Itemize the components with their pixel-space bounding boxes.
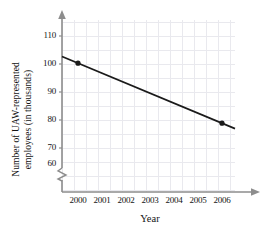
y-tick-label-60: 60 (30, 158, 56, 168)
chart-figure: 110 100 90 80 70 60 2000 2001 2002 2003 … (0, 0, 273, 239)
y-tick-label-100: 100 (30, 58, 56, 68)
y-tick-label-70: 70 (30, 142, 56, 152)
y-tick-label-110: 110 (30, 30, 56, 40)
y-axis-arrow-icon (58, 10, 66, 19)
x-axis-arrow-icon (251, 188, 260, 196)
x-tick-label-2006: 2006 (205, 195, 239, 205)
y-tick-label-80: 80 (30, 114, 56, 124)
data-point-2006 (219, 121, 224, 126)
y-tick-label-90: 90 (30, 86, 56, 96)
x-axis-title: Year (60, 213, 240, 224)
data-point-2000 (75, 61, 80, 66)
